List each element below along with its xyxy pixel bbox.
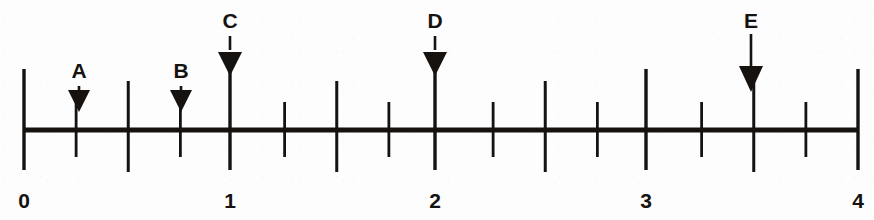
tick-label-group: 01234 (18, 189, 864, 212)
marker-arrowhead-b (170, 90, 192, 112)
axis-tick-label-3: 3 (640, 189, 652, 212)
marker-a: A (68, 59, 90, 112)
axis-tick-label-2: 2 (429, 189, 441, 212)
marker-label-a: A (71, 59, 86, 82)
marker-arrowhead-c (218, 52, 242, 76)
major-tick-group (24, 69, 858, 170)
axis-tick-label-1: 1 (224, 189, 236, 212)
marker-d: D (423, 9, 447, 76)
axis-tick-label-4: 4 (852, 189, 864, 212)
number-line-svg: 01234 ABCDE (0, 0, 874, 220)
marker-arrowhead-d (423, 52, 447, 76)
marker-label-d: D (427, 9, 442, 32)
marker-group: ABCDE (68, 9, 763, 112)
marker-c: C (218, 9, 242, 76)
marker-arrowhead-a (68, 90, 90, 112)
axis-tick-label-0: 0 (18, 189, 30, 212)
marker-e: E (739, 9, 763, 92)
marker-label-e: E (744, 9, 758, 32)
number-line-figure: 01234 ABCDE (0, 0, 874, 220)
marker-label-b: B (173, 59, 188, 82)
medium-tick-group (128, 81, 754, 172)
marker-b: B (170, 59, 192, 112)
number-line-screenshot: 01234 ABCDE (0, 0, 874, 220)
marker-label-c: C (222, 9, 237, 32)
marker-arrowhead-e (739, 66, 763, 92)
